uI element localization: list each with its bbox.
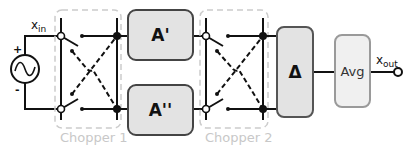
amplifier-a-double-prime-label: A'': [128, 85, 193, 135]
chopper-2-switches: [206, 18, 263, 120]
avg-label: Avg: [335, 35, 370, 107]
chopper-2-label: Chopper 2: [205, 130, 273, 145]
source-plus-sign: +: [13, 43, 22, 56]
delta-label: Δ: [277, 27, 313, 117]
chopper-1-switches: [61, 18, 117, 120]
chopper-1-label: Chopper 1: [60, 130, 128, 145]
input-label-sub: in: [38, 24, 46, 34]
amplifier-a-prime-label: A': [128, 10, 193, 60]
ac-source-icon: [11, 55, 39, 83]
output-label: xout: [376, 53, 398, 69]
output-label-sub: out: [383, 59, 398, 69]
input-label: xin: [31, 18, 46, 34]
source-minus-sign: -: [15, 83, 20, 96]
output-terminal-icon: [394, 68, 402, 76]
